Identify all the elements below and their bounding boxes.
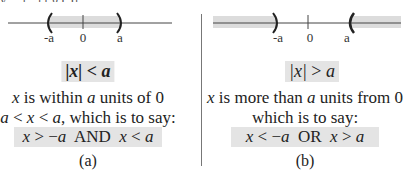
var-a: a xyxy=(52,108,61,127)
op: < − xyxy=(253,127,281,146)
var-x: x xyxy=(119,127,127,146)
number-line-a xyxy=(0,8,180,38)
description-b: x is more than a units from 0 xyxy=(207,88,403,108)
var-x: x xyxy=(330,127,338,146)
var-x: x xyxy=(207,88,215,107)
condition-box-b: |x| > a xyxy=(285,61,339,82)
caption-a: (a) xyxy=(79,152,97,170)
op: < xyxy=(9,108,27,127)
text: units from 0 xyxy=(316,88,403,107)
op: > xyxy=(338,127,356,146)
operator: > xyxy=(311,61,321,81)
tick-label-zero: 0 xyxy=(80,30,87,46)
op: < xyxy=(127,127,145,146)
text: units of 0 xyxy=(96,88,164,107)
var-a: a xyxy=(87,88,96,107)
inequality-a: a < x < a, which is to say: xyxy=(0,108,175,128)
op: < xyxy=(34,108,52,127)
var-a: a xyxy=(307,88,316,107)
text: , which is to say: xyxy=(61,108,176,127)
operator: < xyxy=(87,61,97,81)
compound-box-b: x < −a OR x > a xyxy=(231,127,379,147)
panel-divider xyxy=(201,14,202,166)
abs-x: |x| xyxy=(65,61,82,81)
var-a: a xyxy=(0,108,9,127)
text: is within xyxy=(20,88,88,107)
var-a: a xyxy=(356,127,365,146)
which-is-to-say-b: which is to say: xyxy=(252,108,358,128)
var-a: a xyxy=(145,127,154,146)
tick-label-neg-a: -a xyxy=(44,30,54,46)
shaded-left-ray xyxy=(213,16,277,28)
op: > − xyxy=(30,127,58,146)
tick-label-a: a xyxy=(117,30,123,46)
shaded-interval xyxy=(48,16,120,28)
text: is more than xyxy=(215,88,308,107)
condition-box-a: |x| < a xyxy=(61,61,114,82)
description-a: x is within a units of 0 xyxy=(12,88,164,108)
caption-b: (b) xyxy=(296,152,315,170)
variable-a: a xyxy=(326,61,335,81)
conjunction-and: AND xyxy=(66,127,119,146)
tick-label-neg-a: -a xyxy=(273,30,283,46)
tick-label-zero: 0 xyxy=(307,30,314,46)
var-x: x xyxy=(12,88,20,107)
shaded-right-ray xyxy=(350,16,401,28)
cropped-header-text: y ... [ , ] [ g ( )] xyxy=(0,0,401,2)
conjunction-or: OR xyxy=(289,127,330,146)
abs-x: |x| xyxy=(289,61,307,81)
variable-a: a xyxy=(102,61,111,81)
tick-label-a: a xyxy=(344,30,350,46)
compound-box-a: x > −a AND x < a xyxy=(14,127,162,147)
